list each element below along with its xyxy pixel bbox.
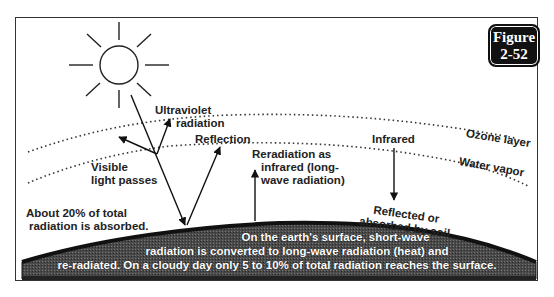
figure-badge-line2: 2-52 xyxy=(490,46,538,63)
surface-description: On the earth's surface, short-wave radia… xyxy=(0,230,554,272)
figure-badge: Figure 2-52 xyxy=(488,24,540,67)
ultraviolet-label: Ultraviolet radiation xyxy=(155,104,225,130)
absorbed-label-line1: About 20% of total xyxy=(26,207,149,220)
ozone-layer-line xyxy=(28,114,515,152)
visible-label-line2: light passes xyxy=(91,174,157,187)
reradiation-label-line2: infrared (long- xyxy=(252,161,345,174)
reflection-label: Reflection xyxy=(195,133,251,146)
ultraviolet-label-line1: Ultraviolet xyxy=(155,104,225,117)
surface-text-line2: radiation is converted to long-wave radi… xyxy=(0,244,554,258)
visible-label-line1: Visible xyxy=(91,161,157,174)
surface-text-line1: On the earth's surface, short-wave xyxy=(0,230,554,244)
infrared-label: Infrared xyxy=(372,133,415,146)
visible-light-label: Visible light passes xyxy=(91,161,157,187)
reradiation-label: Reradiation as infrared (long- wave radi… xyxy=(252,148,345,187)
sun-icon xyxy=(69,22,169,108)
reradiation-label-line3: wave radiation) xyxy=(252,174,345,187)
reradiation-label-line1: Reradiation as xyxy=(252,148,345,161)
reflection-arrow xyxy=(187,147,220,225)
figure-badge-line1: Figure xyxy=(490,29,538,46)
ultraviolet-label-line2: radiation xyxy=(155,117,225,130)
surface-text-line3: re-radiated. On a cloudy day only 5 to 1… xyxy=(0,258,554,272)
